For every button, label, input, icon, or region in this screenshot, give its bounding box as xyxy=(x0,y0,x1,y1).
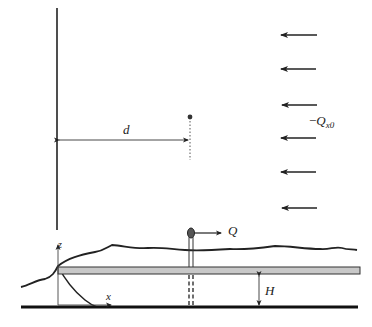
label-distance: d xyxy=(123,123,130,136)
label-uniform-flow: −Qx0 xyxy=(309,114,334,130)
well-head xyxy=(188,228,195,238)
label-x-axis: x xyxy=(106,291,111,302)
label-pumping-rate: Q xyxy=(228,224,237,237)
aquifer-layer-bar xyxy=(58,267,360,274)
label-uniform-flow-symbol: Q xyxy=(316,113,325,128)
well-point-plan xyxy=(188,115,193,120)
label-thickness: H xyxy=(265,284,274,297)
label-z-axis: z xyxy=(58,240,62,250)
label-uniform-flow-subscript: x0 xyxy=(326,120,335,130)
diagram-canvas xyxy=(0,0,372,327)
